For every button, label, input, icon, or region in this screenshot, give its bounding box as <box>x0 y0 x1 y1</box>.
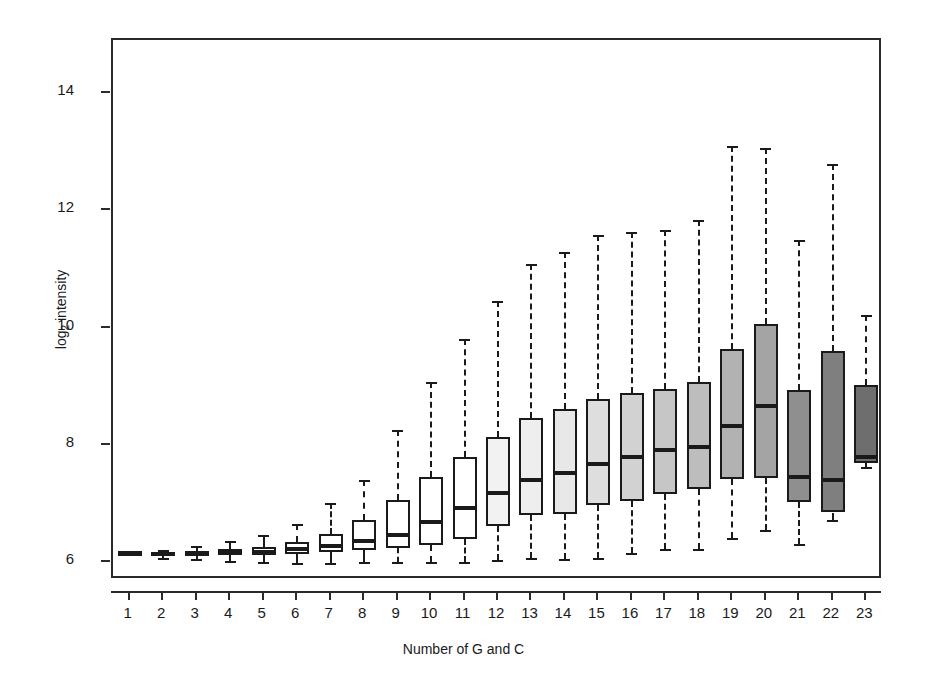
box-group <box>582 40 615 576</box>
box-group <box>146 40 179 576</box>
x-tick-mark <box>563 591 565 600</box>
box-rect <box>653 389 677 494</box>
median-line <box>218 550 242 554</box>
whisker-cap-lower <box>292 563 303 565</box>
y-tick-mark <box>101 443 110 445</box>
box-group <box>347 40 380 576</box>
box-group <box>381 40 414 576</box>
box-group <box>816 40 849 576</box>
box-group <box>749 40 782 576</box>
median-line <box>252 550 276 554</box>
median-line <box>787 475 811 479</box>
median-line <box>151 552 175 556</box>
x-tick-label: 23 <box>844 604 884 621</box>
whisker-lower <box>765 478 767 529</box>
whisker-cap-upper <box>727 146 738 148</box>
box-group <box>783 40 816 576</box>
whisker-lower <box>363 550 365 562</box>
whisker-cap-lower <box>359 562 370 564</box>
box-rect <box>787 390 811 502</box>
median-line <box>821 478 845 482</box>
whisker-cap-lower <box>392 562 403 564</box>
box-group <box>280 40 313 576</box>
whisker-cap-upper <box>861 315 872 317</box>
median-line <box>486 491 510 495</box>
x-tick-mark <box>596 591 598 600</box>
whisker-cap-lower <box>727 538 738 540</box>
box-group <box>850 40 879 576</box>
whisker-cap-lower <box>158 558 169 560</box>
whisker-lower <box>430 545 432 563</box>
y-tick-label: 12 <box>57 198 74 215</box>
x-tick-mark <box>429 591 431 600</box>
y-tick-label: 6 <box>66 550 74 567</box>
x-tick-mark <box>161 591 163 600</box>
box-layer <box>113 40 879 576</box>
median-line <box>620 455 644 459</box>
whisker-cap-lower <box>693 549 704 551</box>
whisker-upper <box>631 232 633 393</box>
median-line <box>386 533 410 537</box>
y-tick-label: 10 <box>57 316 74 333</box>
whisker-lower <box>263 555 265 563</box>
whisker-cap-upper <box>660 230 671 232</box>
whisker-upper <box>330 503 332 534</box>
y-tick-mark <box>101 208 110 210</box>
median-line <box>754 404 778 408</box>
x-axis-title: Number of G and C <box>0 641 927 657</box>
whisker-cap-lower <box>492 560 503 562</box>
median-line <box>553 471 577 475</box>
whisker-cap-upper <box>191 546 202 548</box>
x-tick-mark <box>295 591 297 600</box>
whisker-cap-lower <box>861 467 872 469</box>
whisker-upper <box>430 382 432 478</box>
y-tick-mark <box>101 560 110 562</box>
whisker-lower <box>497 526 499 560</box>
x-tick-mark <box>496 591 498 600</box>
whisker-upper <box>497 301 499 437</box>
x-tick-mark <box>262 591 264 600</box>
whisker-cap-upper <box>526 264 537 266</box>
whisker-cap-upper <box>693 220 704 222</box>
y-tick-mark <box>101 326 110 328</box>
box-group <box>682 40 715 576</box>
whisker-cap-upper <box>593 235 604 237</box>
x-tick-mark <box>730 591 732 600</box>
whisker-cap-lower <box>559 559 570 561</box>
x-tick-mark <box>396 591 398 600</box>
box-rect <box>854 385 878 463</box>
whisker-upper <box>397 430 399 499</box>
whisker-cap-upper <box>392 430 403 432</box>
whisker-lower <box>597 505 599 558</box>
whisker-cap-upper <box>258 535 269 537</box>
x-tick-mark <box>697 591 699 600</box>
boxplot-figure: log2 intensity 68101214 1234567891011121… <box>0 0 927 693</box>
whisker-cap-lower <box>626 553 637 555</box>
y-tick-mark <box>101 91 110 93</box>
whisker-cap-lower <box>593 558 604 560</box>
x-tick-mark <box>228 591 230 600</box>
whisker-cap-upper <box>459 339 470 341</box>
whisker-cap-lower <box>827 520 838 522</box>
x-tick-mark <box>195 591 197 600</box>
whisker-lower <box>564 514 566 560</box>
box-rect <box>754 324 778 478</box>
whisker-cap-lower <box>325 563 336 565</box>
whisker-lower <box>397 548 399 563</box>
whisker-lower <box>464 539 466 562</box>
whisker-lower <box>631 501 633 553</box>
whisker-upper <box>597 235 599 399</box>
median-line <box>653 448 677 452</box>
x-tick-mark <box>864 591 866 600</box>
whisker-cap-lower <box>526 558 537 560</box>
whisker-upper <box>765 148 767 324</box>
whisker-lower <box>798 502 800 544</box>
whisker-cap-upper <box>426 382 437 384</box>
box-group <box>247 40 280 576</box>
whisker-cap-upper <box>794 240 805 242</box>
median-line <box>720 424 744 428</box>
whisker-cap-lower <box>191 559 202 561</box>
whisker-upper <box>865 315 867 385</box>
box-group <box>113 40 146 576</box>
x-tick-mark <box>663 591 665 600</box>
